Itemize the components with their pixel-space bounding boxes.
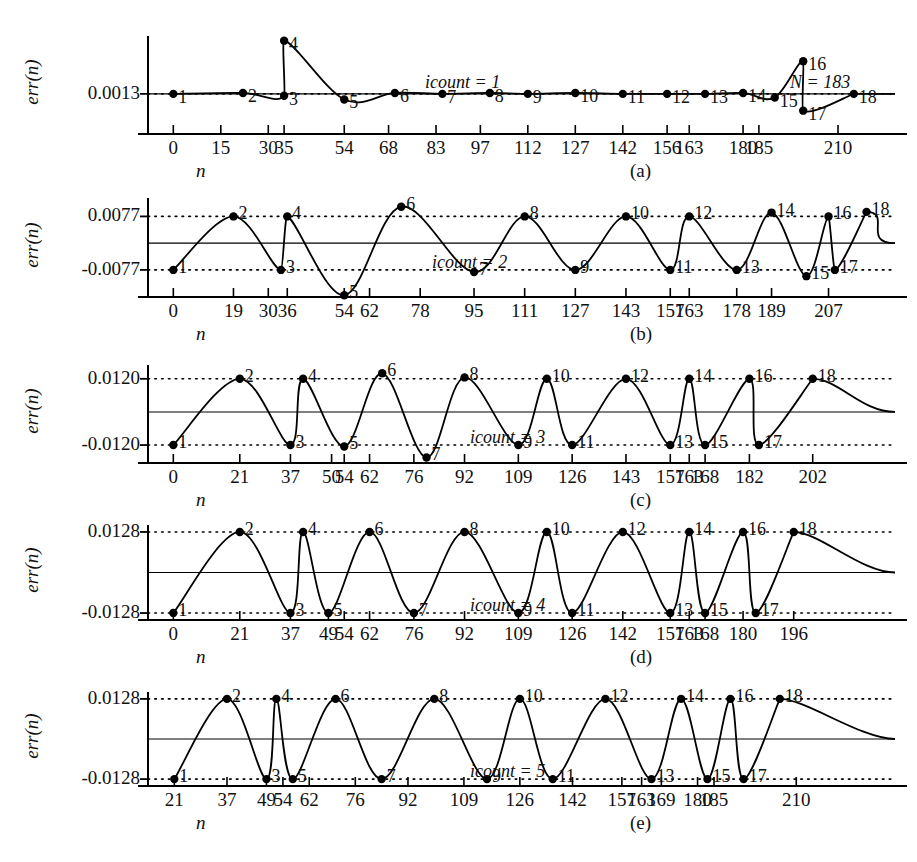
data-point-label: 3: [286, 257, 295, 278]
x-tick-label: 185: [674, 789, 754, 811]
data-point-label: 8: [439, 686, 448, 707]
x-tick-label: 207: [789, 300, 869, 322]
data-point-marker: [666, 266, 674, 274]
data-point-marker: [622, 375, 630, 383]
data-point-label: 3: [295, 432, 304, 453]
data-point-marker: [277, 266, 285, 274]
data-point-marker: [755, 441, 763, 449]
y-tick-label: 0.0128: [30, 687, 140, 709]
data-point-marker: [391, 89, 399, 97]
data-point-label: 5: [298, 766, 307, 787]
chart-panel-c: err(n)0.0120-0.0120021375054627692109126…: [0, 345, 917, 497]
y-tick-label: -0.0120: [30, 433, 140, 455]
data-point-marker: [726, 695, 734, 703]
x-axis-title: n: [196, 646, 206, 668]
data-point-marker: [850, 90, 858, 98]
data-point-label: 18: [872, 199, 890, 220]
y-tick-label: -0.0077: [30, 258, 140, 280]
data-point-marker: [647, 775, 655, 783]
data-point-label: 11: [675, 257, 692, 278]
data-point-label: 1: [178, 600, 187, 621]
x-tick-label: 196: [754, 623, 834, 645]
data-point-marker: [663, 90, 671, 98]
data-point-marker: [824, 212, 832, 220]
chart-panel-a: err(n)0.00130153035546883971121271421561…: [0, 10, 917, 170]
data-point-marker: [169, 441, 177, 449]
data-point-label: 1: [179, 766, 188, 787]
data-point-label: 16: [754, 366, 772, 387]
data-point-marker: [340, 95, 348, 103]
data-point-label: 8: [470, 519, 479, 540]
data-point-label: 15: [811, 263, 829, 284]
data-point-marker: [378, 369, 386, 377]
data-point-marker: [619, 90, 627, 98]
data-point-marker: [331, 695, 339, 703]
data-point-marker: [685, 375, 693, 383]
data-point-label: 9: [580, 257, 589, 278]
data-point-label: 8: [530, 203, 539, 224]
data-point-label: 6: [406, 194, 415, 215]
data-point-label: 7: [419, 600, 428, 621]
data-point-marker: [524, 90, 532, 98]
data-point-marker: [771, 93, 779, 101]
data-point-marker: [666, 441, 674, 449]
icount-annotation: icount = 4: [470, 595, 545, 616]
data-point-label: 17: [808, 104, 826, 125]
data-point-label: 4: [289, 34, 298, 55]
data-point-label: 12: [628, 519, 646, 540]
data-point-marker: [289, 775, 297, 783]
data-point-marker: [752, 609, 760, 617]
data-point-marker: [410, 609, 418, 617]
data-point-label: 3: [271, 766, 280, 787]
panel-caption: (e): [630, 812, 651, 834]
data-point-marker: [280, 92, 288, 100]
data-point-label: 1: [178, 87, 187, 108]
y-tick-label: -0.0128: [30, 601, 140, 623]
data-point-label: 14: [694, 366, 712, 387]
data-point-marker: [549, 775, 557, 783]
data-point-label: 15: [710, 432, 728, 453]
n-total-annotation: N = 183: [790, 72, 850, 93]
data-point-marker: [767, 208, 775, 216]
data-point-marker: [460, 373, 468, 381]
data-point-label: 6: [400, 86, 409, 107]
panel-caption: (d): [630, 646, 652, 668]
chart-panel-b: err(n)0.0077-0.0077019303654627895111127…: [0, 178, 917, 338]
data-point-marker: [280, 36, 288, 44]
data-point-marker: [430, 695, 438, 703]
data-point-label: 16: [735, 686, 753, 707]
data-point-marker: [543, 528, 551, 536]
data-point-label: 4: [308, 519, 317, 540]
data-point-label: 7: [432, 444, 441, 465]
data-point-label: 16: [834, 203, 852, 224]
data-point-marker: [340, 291, 348, 299]
data-point-marker: [622, 212, 630, 220]
data-point-marker: [283, 212, 291, 220]
icount-annotation: icount = 5: [470, 761, 545, 782]
data-point-label: 10: [631, 203, 649, 224]
icount-annotation: icount = 1: [425, 72, 500, 93]
y-tick-label: 0.0128: [30, 520, 140, 542]
data-point-label: 10: [552, 366, 570, 387]
data-point-marker: [619, 528, 627, 536]
y-tick-label: 0.0077: [30, 204, 140, 226]
data-point-label: 2: [248, 86, 257, 107]
data-point-label: 2: [245, 366, 254, 387]
data-point-marker: [520, 212, 528, 220]
data-point-marker: [229, 212, 237, 220]
data-point-label: 12: [631, 366, 649, 387]
figure-root: err(n)0.00130153035546883971121271421561…: [0, 0, 917, 862]
data-point-marker: [397, 202, 405, 210]
data-point-marker: [703, 775, 711, 783]
data-point-label: 18: [785, 686, 803, 707]
chart-panel-d: err(n)0.0128-0.0128021374954627692109126…: [0, 505, 917, 665]
data-point-label: 13: [656, 766, 674, 787]
data-point-marker: [666, 609, 674, 617]
data-point-marker: [516, 695, 524, 703]
data-point-marker: [340, 442, 348, 450]
data-point-label: 14: [694, 519, 712, 540]
data-point-label: 4: [308, 366, 317, 387]
data-point-marker: [543, 375, 551, 383]
data-point-marker: [739, 775, 747, 783]
data-point-marker: [568, 609, 576, 617]
